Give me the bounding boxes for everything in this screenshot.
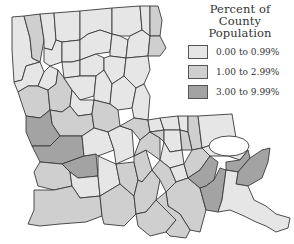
- legend-label-high: 3.00 to 9.99%: [216, 87, 279, 97]
- lake-pontchartrain: [209, 136, 249, 156]
- legend-swatch-mid: [188, 65, 208, 79]
- parish-morehouse: [112, 6, 142, 36]
- parish-jackson: [62, 60, 80, 78]
- legend-item-high: 3.00 to 9.99%: [186, 84, 294, 99]
- parish-east-carroll: [150, 6, 162, 36]
- legend-label-mid: 1.00 to 2.99%: [216, 67, 279, 77]
- legend-swatch-high: [188, 85, 208, 99]
- parish-sabine: [18, 86, 50, 118]
- legend-item-mid: 1.00 to 2.99%: [186, 64, 294, 79]
- legend-title-line2: County Population: [186, 15, 294, 39]
- legend-swatch-low: [188, 45, 208, 59]
- parish-east-feliciana: [160, 116, 180, 130]
- parish-lincoln: [62, 40, 80, 62]
- parish-claiborne: [54, 11, 80, 42]
- parish-tensas-north: [148, 36, 166, 56]
- parish-st-landry: [108, 126, 134, 164]
- parish-richland: [110, 34, 128, 58]
- legend-item-low: 0.00 to 0.99%: [186, 44, 294, 59]
- legend-label-low: 0.00 to 0.99%: [216, 47, 279, 57]
- map-legend: Percent of County Population 0.00 to 0.9…: [186, 3, 294, 99]
